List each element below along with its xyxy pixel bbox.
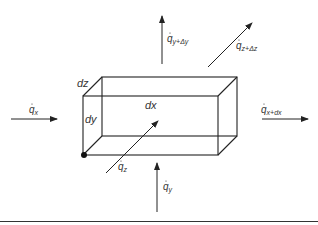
label-dy: dy <box>85 113 98 125</box>
label-qx: qx <box>29 103 39 116</box>
svg-text:qy: qy <box>163 181 173 194</box>
qz-arrow <box>106 121 158 173</box>
label-qz: qz <box>118 160 128 173</box>
box-edge <box>83 136 102 155</box>
qz-sub: z <box>123 166 128 173</box>
svg-text:qy+Δy: qy+Δy <box>167 33 189 46</box>
qy-dy-sub: y+Δy <box>172 38 189 46</box>
qz-dz-sub: z+Δz <box>241 45 258 52</box>
label-qz-dz: qz+Δz <box>236 39 258 52</box>
box-back-face <box>102 77 237 136</box>
svg-text:qz+Δz: qz+Δz <box>236 40 258 52</box>
box-edge <box>218 77 237 96</box>
svg-text:qx+dx: qx+dx <box>261 104 282 116</box>
diagram-canvas: dz dy dx qx qx+dx qy+Δy qz+Δz qz qy <box>0 0 318 225</box>
label-qx-dx: qx+dx <box>261 103 282 116</box>
origin-dot <box>81 152 87 158</box>
label-qy-dy: qy+Δy <box>167 32 189 46</box>
control-volume-box <box>83 77 237 155</box>
label-dx: dx <box>145 99 157 111</box>
box-edge <box>218 136 237 155</box>
label-qy: qy <box>163 180 173 194</box>
heat-flux-diagram: dz dy dx qx qx+dx qy+Δy qz+Δz qz qy <box>0 0 318 225</box>
label-dz: dz <box>77 77 89 89</box>
svg-text:qz: qz <box>118 161 128 173</box>
qx-dx-sub: x+dx <box>266 109 282 116</box>
qy-sub: y <box>168 186 173 194</box>
qx-sub: x <box>34 109 39 116</box>
svg-text:qx: qx <box>29 104 39 116</box>
